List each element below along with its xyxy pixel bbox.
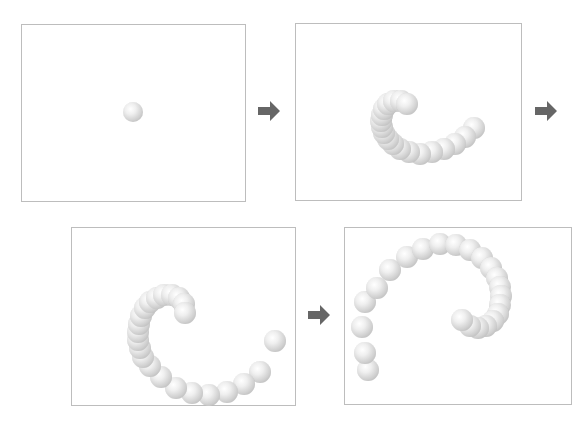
sphere-icon [396,93,418,115]
sphere-icon [354,342,376,364]
right-arrow-icon [308,305,330,325]
sphere-icon [264,330,286,352]
sphere-icon [366,277,388,299]
right-arrow-icon [258,101,280,121]
sphere-icon [174,302,196,324]
right-arrow-icon [535,101,557,121]
sphere-icon [451,309,473,331]
sphere-icon [123,102,143,122]
sphere-icon [351,316,373,338]
